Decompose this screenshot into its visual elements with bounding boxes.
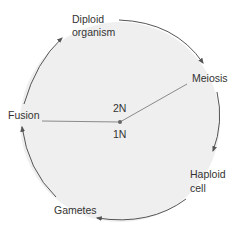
ploidy-1n-label: 1N — [113, 128, 126, 140]
meiosis-label: Meiosis — [192, 72, 228, 84]
life-cycle-diagram: Diploid organism Meiosis Fusion 2N 1N Ha… — [0, 0, 235, 239]
diploid-label-line2: organism — [72, 26, 115, 38]
ploidy-2n-label: 2N — [113, 102, 126, 114]
gametes-label: Gametes — [54, 204, 97, 216]
fusion-label: Fusion — [8, 109, 40, 121]
diploid-label-line1: Diploid — [72, 13, 104, 25]
haploid-label-line2: cell — [190, 182, 206, 194]
haploid-label-line1: Haploid — [190, 168, 226, 180]
center-dot — [118, 120, 122, 124]
